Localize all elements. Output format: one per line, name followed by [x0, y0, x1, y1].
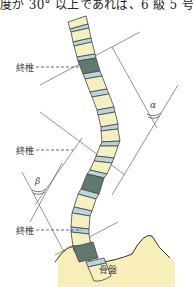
label-end-vertebra-middle: 終椎 — [16, 144, 34, 157]
spine — [68, 16, 120, 281]
angle-alpha-label: α — [150, 100, 156, 110]
guide-lines — [22, 32, 178, 255]
label-end-vertebra-bottom: 終椎 — [16, 224, 34, 237]
angle-beta-label: β — [35, 176, 40, 186]
label-end-vertebra-top: 終椎 — [16, 61, 34, 74]
label-pelvis: 骨盤 — [99, 263, 117, 276]
